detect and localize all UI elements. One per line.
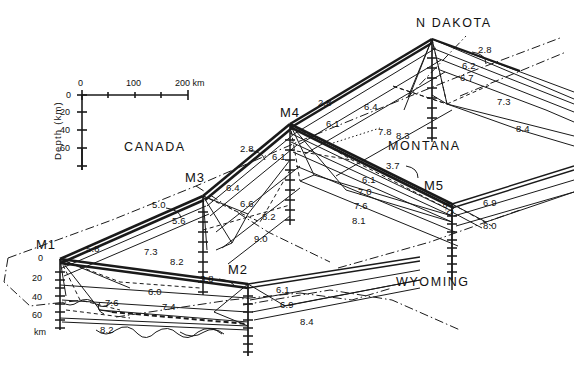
station-label-m1: M1 (36, 237, 56, 252)
velocity-label-nd-2: 6.2 (462, 60, 476, 71)
m1-depth-20: 20 (32, 273, 42, 283)
velocity-label-m4-2: 6.1 (326, 118, 340, 129)
region-label-canada: CANADA (124, 140, 186, 154)
velocity-label-m2-5: 6.9 (280, 299, 294, 310)
scale-tick-200: 200 km (175, 78, 205, 88)
m1-m2-internal (60, 259, 248, 356)
velocity-label-m4-1: 2.8 (318, 97, 332, 108)
m1-m2-surface (60, 259, 248, 288)
station-tick-m1 (55, 259, 65, 330)
scale-bar-geometry (77, 90, 188, 170)
region-label-n-dakota: N DAKOTA (416, 16, 492, 30)
m1-depth-40: 40 (32, 292, 42, 302)
velocity-label-m1-5: 8.2 (100, 324, 114, 335)
m5-east-lines (452, 180, 574, 228)
velocity-label-m3-2: 5.6 (172, 215, 186, 226)
velocity-label-m3-3: 6.4 (226, 182, 240, 193)
region-label-montana: MONTANA (388, 139, 461, 153)
m2-se-surface (248, 257, 420, 288)
velocity-label-m2-4: 6.1 (276, 284, 290, 295)
station-tick-m2 (243, 284, 253, 356)
velocity-label-m4-4: 7.8 (378, 126, 392, 137)
velocity-label-m2-1: 3.8 (200, 273, 214, 284)
station-label-m3: M3 (185, 170, 205, 185)
velocity-label-m4-5: 8.3 (396, 130, 410, 141)
scale-tick-100: 100 (126, 78, 141, 88)
velocity-label-m2-2: 6.0 (148, 286, 162, 297)
velocity-label-m2-3: 7.4 (162, 301, 176, 312)
station-label-m2: M2 (228, 262, 248, 277)
depth-axis-title: Depth (km) (52, 101, 63, 160)
nd-panel-surface (432, 39, 520, 71)
velocity-label-m4-left-2: 6.1 (272, 151, 286, 162)
station-tick-m4 (285, 124, 295, 225)
velocity-label-mt-2: 6.1 (362, 174, 376, 185)
velocity-label-mt-4: 7.6 (354, 200, 368, 211)
velocity-label-m4-3: 6.4 (364, 101, 378, 112)
velocity-label-m1-4: 7.6 (105, 297, 119, 308)
velocity-label-m1-3: 8.2 (170, 256, 184, 267)
m4-apex-surface (290, 39, 432, 128)
velocity-label-mt-1: 3.7 (386, 160, 400, 171)
velocity-label-m1-1: 5.8 (86, 243, 100, 254)
velocity-label-nd-5: 8.4 (516, 123, 530, 134)
velocity-label-m5-2: 6.9 (483, 197, 497, 208)
m5-east-surface (452, 166, 574, 208)
scale-tick-0: 0 (78, 78, 83, 88)
m1-depth-0: 0 (38, 253, 43, 263)
velocity-label-m1-2: 7.3 (144, 246, 158, 257)
velocity-label-mt-5: 8.1 (352, 215, 366, 226)
m2-se-lines (248, 270, 420, 320)
velocity-label-m5-3: 8.0 (483, 220, 497, 231)
velocity-label-nd-1: 2.8 (478, 44, 492, 55)
m4-m5-surface (290, 124, 454, 208)
east-panel-interfaces (432, 39, 574, 146)
velocity-label-mt-3: 7.0 (358, 186, 372, 197)
velocity-label-nd-3: 6.7 (460, 72, 474, 83)
station-label-m4: M4 (280, 105, 300, 120)
velocity-label-m2-6: 8.4 (300, 316, 314, 327)
m1-depth-unit: km (34, 327, 46, 337)
station-label-m5: M5 (424, 178, 444, 193)
velocity-label-m3-6: 9.0 (254, 233, 268, 244)
figure-canvas: 0 100 200 km 0 20 40 60 Depth (km) 0 20 … (0, 0, 574, 366)
region-label-wyoming: WYOMING (396, 275, 470, 289)
velocity-label-m4-left-1: 2.8 (240, 143, 254, 154)
scale-depth-0: 0 (66, 90, 71, 100)
m1-depth-60: 60 (32, 310, 42, 320)
velocity-label-m3-5: 8.2 (262, 211, 276, 222)
velocity-label-m3-1: 5.0 (152, 199, 166, 210)
m3-m4-surface (203, 124, 292, 200)
m1-m3-surface (60, 196, 204, 263)
velocity-label-nd-4: 7.3 (497, 96, 511, 107)
velocity-label-m3-4: 6.6 (240, 198, 254, 209)
